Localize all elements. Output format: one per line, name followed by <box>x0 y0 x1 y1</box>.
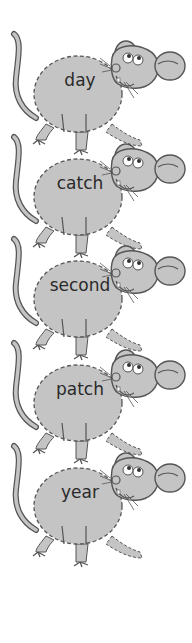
mouse-word: year <box>30 482 130 502</box>
mouse-card-4: patch <box>0 337 192 447</box>
mouse-card-2: catch <box>0 131 192 241</box>
mouse-card-5: year <box>0 440 192 550</box>
mouse-word: patch <box>30 379 130 399</box>
mouse-word: day <box>30 70 130 90</box>
mouse-card-3: second <box>0 233 192 343</box>
mouse-word: catch <box>30 173 130 193</box>
mouse-word: second <box>30 275 130 295</box>
mouse-card-1: day <box>0 28 192 138</box>
